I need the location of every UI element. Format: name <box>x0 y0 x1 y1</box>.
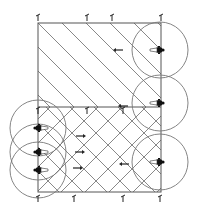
hatch-line <box>182 23 199 143</box>
hatch-line <box>0 23 110 143</box>
hatch-line <box>110 23 199 143</box>
arrow-left-icon <box>119 162 129 166</box>
arrow-right-icon <box>75 150 85 154</box>
source-figure-icon <box>150 159 165 166</box>
hatch-line <box>0 107 2 207</box>
top-marker <box>110 14 114 21</box>
source-figure-icon <box>150 47 165 54</box>
hatch-line <box>0 107 2 207</box>
diagram-canvas <box>0 0 199 219</box>
hatch-line <box>190 107 199 207</box>
hatch-line <box>0 23 86 143</box>
divider-marker <box>85 107 89 114</box>
hatch-line <box>190 107 199 207</box>
bottom-marker <box>36 195 40 202</box>
hatch-line <box>134 23 199 143</box>
source-figure-icon <box>33 167 48 174</box>
hatch-line <box>166 107 199 207</box>
source-figure-icon <box>150 100 165 107</box>
divider-marker <box>36 107 40 114</box>
bottom-marker <box>158 195 162 202</box>
hatch-line <box>166 107 199 207</box>
bottom-marker <box>121 195 125 202</box>
top-marker <box>36 14 40 21</box>
top-marker <box>85 14 89 21</box>
hatch-line <box>158 23 199 143</box>
bottom-marker <box>72 195 76 202</box>
arrow-right-icon <box>76 134 86 138</box>
coverage-diagram <box>0 0 199 219</box>
top-marker <box>159 14 163 21</box>
